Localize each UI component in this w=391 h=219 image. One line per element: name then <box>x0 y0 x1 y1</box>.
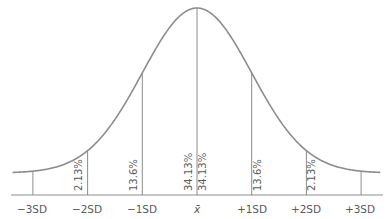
chart-svg: −3SD −2SD −1SD x̄ +1SD +2SD +3SD 2.13% 1… <box>0 0 391 219</box>
tick-label-minus-3sd: −3SD <box>17 203 47 215</box>
tick-label-plus-1sd: +1SD <box>237 203 267 215</box>
tick-label-mean: x̄ <box>193 203 201 215</box>
band-label-plus1-plus2: 13.6% <box>252 159 263 191</box>
normal-distribution-chart: −3SD −2SD −1SD x̄ +1SD +2SD +3SD 2.13% 1… <box>0 0 391 219</box>
tick-label-minus-2sd: −2SD <box>72 203 102 215</box>
band-label-minus1-mean: 34.13% <box>183 153 194 191</box>
band-label-plus2-plus3: 2.13% <box>306 159 317 191</box>
band-label-minus2-minus1: 13.6% <box>128 159 139 191</box>
x-axis-tick-labels: −3SD −2SD −1SD x̄ +1SD +2SD +3SD <box>17 203 375 215</box>
band-percent-labels: 2.13% 13.6% 34.13% 34.13% 13.6% 2.13% <box>73 153 317 191</box>
band-label-mean-plus1: 34.13% <box>197 153 208 191</box>
tick-label-plus-3sd: +3SD <box>345 203 375 215</box>
tick-label-minus-1sd: −1SD <box>127 203 157 215</box>
bell-curve <box>13 8 381 172</box>
band-label-minus3-minus2: 2.13% <box>73 159 84 191</box>
tick-label-plus-2sd: +2SD <box>291 203 321 215</box>
